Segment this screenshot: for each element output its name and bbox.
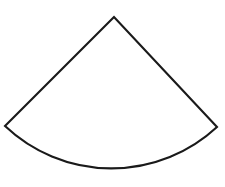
circular-sector-figure bbox=[0, 0, 225, 187]
figure-canvas bbox=[0, 0, 225, 187]
